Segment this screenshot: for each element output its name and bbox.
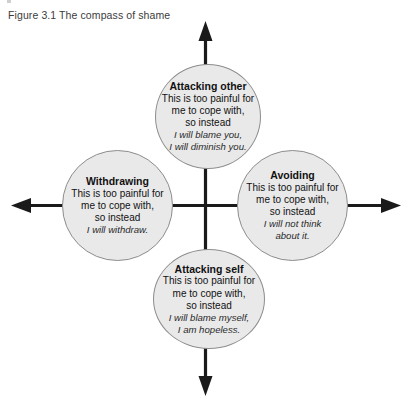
node-italic-1: I will withdraw. — [87, 224, 148, 236]
node-line-3: so instead — [95, 212, 141, 224]
node-line-2: me to cope with, — [256, 194, 329, 206]
arrow-left-icon — [11, 198, 31, 213]
node-italic-2: I am hopeless. — [178, 324, 240, 336]
node-italic-1: I will blame myself, — [169, 312, 250, 324]
arrow-down-icon — [199, 376, 213, 396]
node-italic-2: about it. — [275, 230, 309, 242]
compass-node-avoiding: Avoiding This is too painful for me to c… — [237, 150, 348, 261]
node-line-2: me to cope with, — [173, 288, 246, 300]
compass-node-withdrawing: Withdrawing This is too painful for me t… — [62, 150, 173, 261]
node-line-3: so instead — [185, 117, 231, 129]
compass-node-attacking-self: Attacking self This is too painful for m… — [153, 249, 265, 349]
node-line-1: This is too painful for — [71, 188, 163, 200]
node-line-1: This is too painful for — [246, 182, 338, 194]
node-line-1: This is too painful for — [162, 93, 254, 105]
compass-of-shame-figure: Figure 3.1 The compass of shame Withdraw… — [0, 0, 410, 405]
compass-node-attacking-other: Attacking other This is too painful for … — [155, 64, 261, 169]
node-italic-1: I will not think — [264, 218, 322, 230]
arrow-up-icon — [199, 21, 213, 41]
node-italic-2: I will diminish you. — [169, 141, 246, 153]
node-title: Withdrawing — [86, 175, 149, 188]
node-line-2: me to cope with, — [172, 105, 245, 117]
arrow-right-icon — [381, 198, 401, 213]
node-line-3: so instead — [186, 300, 232, 312]
node-title: Attacking self — [175, 263, 244, 276]
node-title: Avoiding — [270, 169, 315, 182]
node-line-3: so instead — [270, 206, 316, 218]
node-line-2: me to cope with, — [81, 200, 154, 212]
node-italic-1: I will blame you, — [174, 129, 242, 141]
node-title: Attacking other — [169, 80, 246, 93]
node-line-1: This is too painful for — [163, 275, 255, 287]
